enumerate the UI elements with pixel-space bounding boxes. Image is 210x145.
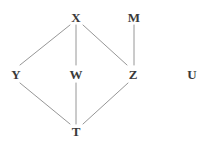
node-label-x: X [65, 11, 87, 24]
edge-x-z [83, 25, 127, 65]
node-label-y: Y [5, 68, 27, 81]
edge-y-t [20, 83, 70, 124]
node-label-t: T [65, 125, 87, 138]
hasse-diagram: XMYWZUT [0, 0, 210, 145]
node-label-z: Z [122, 68, 144, 81]
node-label-u: U [181, 68, 203, 81]
edge-z-t [83, 83, 128, 124]
edge-x-y [20, 25, 70, 65]
node-label-m: M [123, 11, 145, 24]
node-label-w: W [65, 68, 87, 81]
edge-layer [0, 0, 210, 145]
